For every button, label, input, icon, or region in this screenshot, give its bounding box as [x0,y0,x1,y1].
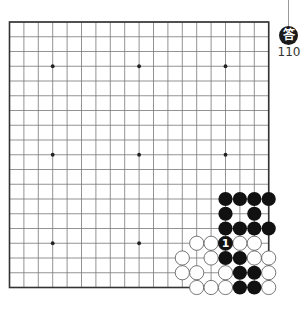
white-stone[interactable] [247,236,261,250]
star-point [51,153,55,157]
white-stone[interactable] [247,251,261,265]
black-stone[interactable] [247,221,261,235]
black-stone[interactable] [233,266,247,280]
star-point [137,241,141,245]
white-stone[interactable] [190,266,204,280]
star-point [137,64,141,68]
white-stone[interactable] [204,251,218,265]
black-stone[interactable] [247,207,261,221]
move-number-label: 1 [222,237,230,250]
white-stone[interactable] [175,251,189,265]
answer-badge-icon: 答 [279,26,298,45]
problem-number: 110 [276,45,302,59]
black-stone[interactable] [247,192,261,206]
black-stone[interactable] [233,192,247,206]
black-stone[interactable] [262,221,276,235]
go-board[interactable]: 1 [0,0,302,327]
white-stone[interactable] [262,251,276,265]
white-stone[interactable] [233,236,247,250]
black-stone[interactable] [218,207,232,221]
black-stone[interactable] [233,280,247,294]
star-point [224,64,228,68]
white-stone[interactable] [218,266,232,280]
black-stone[interactable] [218,192,232,206]
white-stone[interactable] [190,280,204,294]
answer-leader-line [288,0,289,26]
white-stone[interactable] [262,266,276,280]
black-stone[interactable] [262,192,276,206]
black-stone[interactable] [218,221,232,235]
white-stone[interactable] [204,236,218,250]
star-point [137,153,141,157]
star-point [51,241,55,245]
white-stone[interactable] [218,280,232,294]
black-stone[interactable] [233,221,247,235]
star-point [224,153,228,157]
black-stone[interactable] [233,251,247,265]
black-stone[interactable] [247,266,261,280]
white-stone[interactable] [175,266,189,280]
black-stone[interactable] [218,251,232,265]
star-point [51,64,55,68]
white-stone[interactable] [262,280,276,294]
white-stone[interactable] [204,280,218,294]
white-stone[interactable] [190,236,204,250]
black-stone[interactable] [247,280,261,294]
